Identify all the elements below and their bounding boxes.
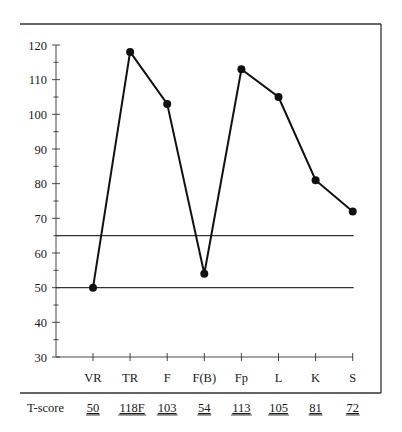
x-tick-label-f: F [164, 371, 171, 385]
x-tick-label-fb: F(B) [192, 371, 216, 385]
data-point-fb [200, 270, 208, 278]
x-tick-label-s: S [349, 371, 356, 385]
y-tick-label: 120 [28, 39, 47, 53]
t-score-value: 72 [346, 401, 359, 415]
validity-scale-profile-chart: 30405060708090100110120 VRTRFF(B)FpLKS T… [0, 0, 402, 432]
t-score-value: 113 [232, 401, 250, 415]
data-point-fp [237, 65, 245, 73]
chart-frame [20, 24, 381, 393]
t-score-value: 118F [119, 401, 144, 415]
y-axis: 30405060708090100110120 [28, 39, 60, 365]
data-point-vr [89, 284, 97, 292]
y-tick-label: 70 [35, 212, 48, 226]
data-point-f [163, 100, 171, 108]
data-point-k [312, 176, 320, 184]
series-line [93, 52, 353, 288]
chart-canvas: 30405060708090100110120 VRTRFF(B)FpLKS T… [0, 0, 402, 432]
x-tick-label-fp: Fp [235, 371, 248, 385]
t-score-value: 50 [87, 401, 100, 415]
y-tick-label: 100 [28, 108, 47, 122]
y-tick-label: 50 [35, 281, 48, 295]
data-point-s [349, 207, 357, 215]
y-tick-label: 110 [29, 73, 47, 87]
y-tick-label: 40 [35, 316, 48, 330]
t-score-value: 54 [198, 401, 211, 415]
t-score-value: 105 [269, 401, 288, 415]
data-series [89, 48, 357, 292]
x-axis: VRTRFF(B)FpLKS [56, 353, 356, 385]
t-score-value: 81 [309, 401, 322, 415]
y-tick-label: 60 [35, 247, 48, 261]
t-score-label: T-score [27, 401, 64, 415]
x-tick-label-k: K [311, 371, 320, 385]
x-tick-label-vr: VR [84, 371, 102, 385]
y-tick-label: 80 [35, 177, 48, 191]
data-point-l [275, 93, 283, 101]
y-tick-label: 30 [35, 351, 48, 365]
x-tick-label-tr: TR [122, 371, 139, 385]
data-point-tr [126, 48, 134, 56]
t-score-row: T-score50118F103541131058172 [27, 401, 360, 415]
t-score-value: 103 [158, 401, 177, 415]
y-tick-label: 90 [35, 143, 48, 157]
x-tick-label-l: L [275, 371, 283, 385]
